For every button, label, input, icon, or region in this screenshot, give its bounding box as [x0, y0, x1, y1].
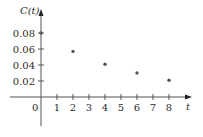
x-axis-title: t [186, 101, 191, 112]
x-tick-label: 4 [102, 102, 108, 113]
y-tick-label: 0.06 [13, 44, 35, 55]
data-points [39, 31, 170, 82]
y-tick-label: 0.02 [13, 76, 35, 87]
scatter-chart: 123456780.020.040.060.08 C(t) t 0 [0, 0, 203, 137]
data-point [103, 62, 106, 65]
x-tick-label: 8 [166, 102, 172, 113]
x-tick-label: 7 [150, 102, 156, 113]
data-point [71, 50, 74, 53]
data-point [135, 71, 138, 74]
x-tick-label: 6 [134, 102, 140, 113]
x-axis-arrow-icon [185, 95, 192, 100]
y-tick-label: 0.04 [13, 60, 35, 71]
ticks [38, 33, 169, 100]
x-tick-label: 2 [70, 102, 76, 113]
x-tick-label: 1 [54, 102, 60, 113]
x-tick-label: 3 [86, 102, 92, 113]
origin-label: 0 [32, 102, 38, 113]
tick-labels: 123456780.020.040.060.08 [13, 28, 172, 114]
x-tick-label: 5 [118, 102, 124, 113]
data-point [167, 79, 170, 82]
y-axis-title: C(t) [20, 5, 40, 16]
y-tick-label: 0.08 [13, 28, 35, 39]
data-point [39, 31, 42, 34]
